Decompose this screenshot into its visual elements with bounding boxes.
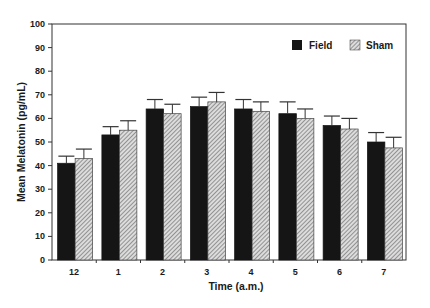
y-tick-label: 80 — [35, 66, 45, 76]
y-tick-label: 40 — [35, 161, 45, 171]
bar-field — [102, 127, 120, 260]
y-tick-label: 70 — [35, 90, 45, 100]
bar-field — [367, 133, 385, 260]
melatonin-bar-chart: 0102030405060708090100 121234567 Mean Me… — [0, 0, 430, 308]
y-tick-label: 30 — [35, 184, 45, 194]
y-tick-label: 10 — [35, 231, 45, 241]
y-tick-label: 0 — [40, 255, 45, 265]
x-axis-title: Time (a.m.) — [208, 280, 263, 292]
bar-sham — [119, 121, 137, 260]
bar-sham — [252, 102, 270, 260]
bar-sham — [385, 137, 403, 260]
y-tick-label: 60 — [35, 113, 45, 123]
legend: Field Sham — [292, 40, 393, 51]
legend-sham-label: Sham — [366, 40, 393, 51]
bar-field — [58, 156, 76, 260]
y-tick-label: 50 — [35, 137, 45, 147]
bar-field — [235, 100, 253, 260]
y-axis: 0102030405060708090100 — [30, 19, 52, 265]
bar-sham — [296, 109, 314, 260]
bar-field — [146, 100, 164, 260]
x-tick-label: 1 — [116, 267, 121, 277]
bar-field — [323, 116, 341, 260]
y-tick-label: 20 — [35, 208, 45, 218]
x-tick-label: 5 — [293, 267, 298, 277]
legend-sham-swatch — [350, 40, 360, 50]
bars — [58, 92, 403, 260]
x-axis: 121234567 — [69, 260, 386, 277]
x-tick-label: 2 — [160, 267, 165, 277]
x-tick-label: 6 — [337, 267, 342, 277]
y-tick-label: 100 — [30, 19, 45, 29]
bar-sham — [341, 118, 359, 260]
bar-field — [190, 97, 208, 260]
x-tick-label: 12 — [69, 267, 79, 277]
x-tick-label: 7 — [381, 267, 386, 277]
x-tick-label: 4 — [249, 267, 254, 277]
y-tick-label: 90 — [35, 43, 45, 53]
bar-field — [279, 102, 297, 260]
bar-sham — [164, 104, 182, 260]
bar-sham — [75, 149, 93, 260]
legend-field-label: Field — [309, 40, 332, 51]
legend-field-swatch — [292, 40, 302, 50]
x-tick-label: 3 — [204, 267, 209, 277]
y-axis-title: Mean Melatonin (pg/mL) — [15, 82, 27, 202]
bar-sham — [208, 92, 226, 260]
